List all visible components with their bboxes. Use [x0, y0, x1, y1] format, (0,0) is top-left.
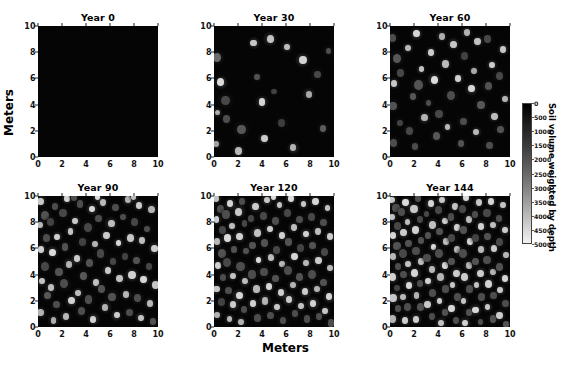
- soil-feature-dot: [139, 237, 145, 243]
- colorbar-tick-label: 500: [534, 114, 547, 121]
- panel-plot-area: [38, 26, 158, 157]
- panel-plot-area: [390, 26, 510, 157]
- soil-feature-dot: [235, 147, 242, 154]
- x-tick-label: 2: [235, 160, 241, 169]
- x-tick-label: 8: [483, 160, 489, 169]
- x-tick-mark: [486, 23, 487, 26]
- x-tick-label: 2: [411, 330, 417, 339]
- soil-feature-dot: [267, 35, 274, 43]
- x-tick-label: 2: [59, 330, 65, 339]
- x-tick-mark: [414, 193, 415, 196]
- y-tick-mark: [35, 222, 38, 223]
- x-tick-label: 10: [328, 160, 339, 169]
- soil-feature-dot: [472, 307, 478, 314]
- colorbar-tick-mark: [532, 230, 534, 231]
- x-tick-mark: [510, 193, 511, 196]
- x-tick-label: 8: [483, 330, 489, 339]
- x-tick-label: 0: [35, 330, 41, 339]
- soil-feature-dot: [406, 282, 412, 289]
- panel-plot-area: [38, 196, 158, 327]
- soil-feature-dot: [429, 313, 435, 319]
- x-tick-mark: [62, 23, 63, 26]
- y-tick-label: 10: [376, 22, 387, 31]
- x-tick-label: 8: [307, 330, 313, 339]
- soil-feature-dot: [299, 56, 307, 64]
- x-tick-label: 4: [435, 330, 441, 339]
- soil-feature-dot: [248, 270, 256, 278]
- soil-feature-dot: [108, 293, 116, 302]
- soil-feature-dot: [128, 271, 135, 279]
- soil-feature-dot: [79, 238, 86, 246]
- soil-feature-dot: [68, 228, 74, 234]
- y-tick-mark: [35, 327, 38, 328]
- x-tick-mark: [62, 193, 63, 196]
- soil-feature-dot: [478, 223, 484, 230]
- soil-feature-dot: [395, 305, 401, 312]
- soil-feature-dot: [261, 135, 267, 142]
- panel-title: Year 0: [38, 12, 158, 23]
- x-tick-mark: [134, 23, 135, 26]
- soil-feature-dot: [90, 316, 96, 323]
- soil-feature-dot: [285, 238, 292, 245]
- colorbar-tick-mark: [532, 216, 534, 217]
- soil-feature-dot: [419, 66, 424, 72]
- soil-feature-dot: [496, 215, 503, 222]
- soil-feature-dot: [95, 215, 102, 222]
- soil-feature-dot: [496, 72, 503, 80]
- soil-feature-dot: [312, 198, 318, 205]
- soil-feature-dot: [284, 266, 292, 275]
- colorbar-tick-mark: [532, 103, 534, 104]
- soil-feature-dot: [229, 223, 235, 229]
- y-tick-mark: [35, 248, 38, 249]
- soil-feature-dot: [402, 317, 408, 324]
- soil-feature-dot: [221, 96, 230, 105]
- soil-feature-dot: [260, 212, 267, 220]
- panel-year-144: Year 14402468100246810: [390, 196, 510, 327]
- soil-feature-dot: [461, 52, 468, 60]
- soil-feature-dot: [288, 196, 294, 202]
- soil-feature-dot: [306, 91, 312, 98]
- x-tick-mark: [414, 23, 415, 26]
- soil-feature-dot: [249, 242, 255, 249]
- soil-feature-dot: [442, 60, 449, 67]
- y-tick-label: 10: [200, 192, 211, 201]
- y-tick-mark: [387, 300, 390, 301]
- soil-feature-dot: [435, 110, 442, 118]
- x-tick-mark: [334, 23, 335, 26]
- x-tick-mark: [158, 23, 159, 26]
- y-tick-label: 10: [24, 192, 35, 201]
- x-tick-mark: [462, 193, 463, 196]
- soil-feature-dot: [461, 273, 468, 281]
- x-tick-label: 2: [235, 330, 241, 339]
- soil-feature-dot: [223, 115, 230, 122]
- soil-feature-dot: [254, 314, 261, 322]
- soil-feature-dot: [144, 226, 150, 232]
- y-tick-mark: [211, 274, 214, 275]
- x-tick-mark: [390, 23, 391, 26]
- soil-feature-dot: [138, 315, 144, 322]
- soil-feature-dot: [236, 262, 244, 271]
- x-tick-label: 0: [211, 160, 217, 169]
- y-tick-mark: [211, 52, 214, 53]
- soil-feature-dot: [497, 126, 504, 133]
- y-tick-mark: [387, 130, 390, 131]
- soil-feature-dot: [112, 204, 118, 211]
- soil-feature-dot: [448, 305, 454, 312]
- y-tick-mark: [211, 222, 214, 223]
- x-tick-label: 4: [259, 160, 265, 169]
- soil-feature-dot: [220, 274, 227, 281]
- y-tick-mark: [387, 248, 390, 249]
- x-tick-label: 6: [107, 160, 113, 169]
- soil-feature-dot: [222, 210, 230, 218]
- x-tick-mark: [110, 193, 111, 196]
- x-tick-mark: [214, 193, 215, 196]
- soil-feature-dot: [304, 315, 311, 322]
- soil-feature-dot: [397, 120, 403, 127]
- panel-title: Year 30: [214, 12, 334, 23]
- y-tick-mark: [211, 327, 214, 328]
- soil-feature-dot: [308, 213, 315, 221]
- soil-feature-dot: [413, 30, 419, 37]
- x-tick-label: 10: [152, 330, 163, 339]
- soil-feature-dot: [503, 321, 509, 327]
- soil-feature-dot: [424, 301, 430, 308]
